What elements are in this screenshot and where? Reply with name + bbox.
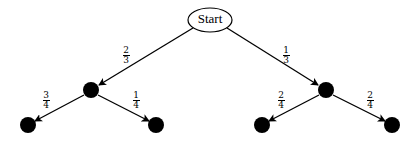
fraction-numerator: 2 xyxy=(274,91,288,100)
edge-label-a-a1: 3 4 xyxy=(39,91,53,110)
edge-start-to-a xyxy=(99,28,193,85)
start-label: Start xyxy=(188,11,232,27)
fraction-denominator: 4 xyxy=(363,101,377,110)
fraction-denominator: 4 xyxy=(274,101,288,110)
node-a xyxy=(83,82,99,98)
fraction-denominator: 4 xyxy=(129,101,143,110)
edge-label-a-a2: 1 4 xyxy=(129,91,143,110)
node-b xyxy=(318,82,334,98)
fraction-denominator: 3 xyxy=(279,56,293,65)
leaf-a1 xyxy=(20,117,36,133)
fraction-numerator: 3 xyxy=(39,91,53,100)
fraction-denominator: 3 xyxy=(119,56,133,65)
edge-label-b-b2: 2 4 xyxy=(363,91,377,110)
edge-label-b-b1: 2 4 xyxy=(274,91,288,110)
edge-b-to-b2 xyxy=(333,95,385,121)
leaf-b2 xyxy=(384,117,400,133)
edge-label-start-a: 2 3 xyxy=(119,46,133,65)
leaf-b1 xyxy=(254,117,270,133)
leaf-a2 xyxy=(148,117,164,133)
edge-start-to-b xyxy=(227,28,318,85)
fraction-numerator: 1 xyxy=(129,91,143,100)
fraction-denominator: 4 xyxy=(39,101,53,110)
fraction-numerator: 2 xyxy=(119,46,133,55)
edge-label-start-b: 1 3 xyxy=(279,46,293,65)
fraction-numerator: 2 xyxy=(363,91,377,100)
fraction-numerator: 1 xyxy=(279,46,293,55)
